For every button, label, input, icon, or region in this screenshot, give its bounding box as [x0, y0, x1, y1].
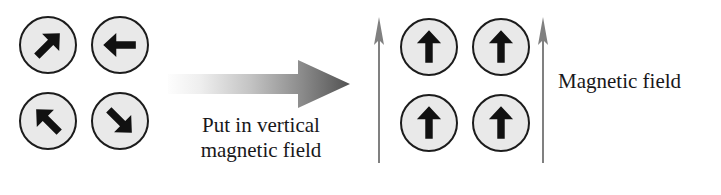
aligned-magnet-top-right — [472, 18, 530, 76]
field-arrow-left — [371, 15, 387, 163]
field-arrow-right — [535, 15, 551, 163]
moment-arrow-up-icon — [474, 20, 528, 74]
magnetic-domain-diagram: Put in vertical magnetic field — [0, 0, 721, 195]
aligned-magnet-bottom-right — [472, 94, 530, 152]
moment-arrow-up-icon — [402, 96, 456, 150]
moment-arrow-up-icon — [402, 20, 456, 74]
aligned-magnet-bottom-left — [400, 94, 458, 152]
aligned-magnet-group: Magnetic field — [0, 0, 721, 195]
moment-arrow-up-icon — [474, 96, 528, 150]
aligned-magnet-top-left — [400, 18, 458, 76]
magnetic-field-label: Magnetic field — [558, 68, 681, 94]
